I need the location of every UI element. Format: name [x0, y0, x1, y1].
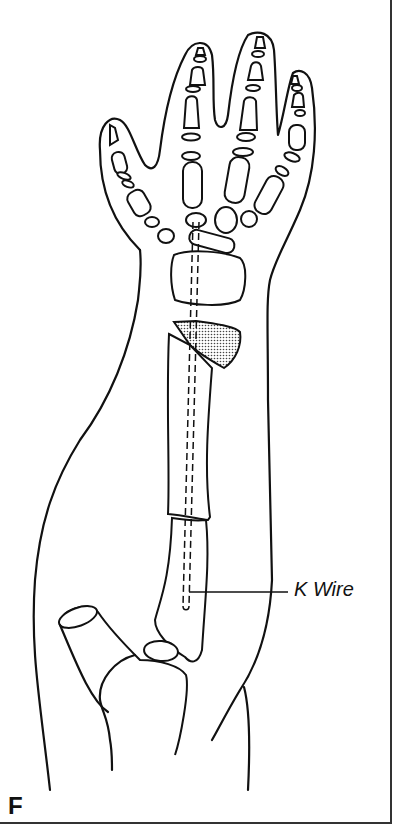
arm-hand-drawing	[0, 0, 395, 830]
panel-letter: F	[8, 792, 23, 820]
forearm-left-outline	[34, 250, 141, 790]
forearm-bone-shaft	[168, 334, 212, 520]
medical-illustration: K Wire F	[0, 0, 395, 830]
distal-bone	[155, 518, 207, 661]
kwire-label: K Wire	[294, 578, 354, 601]
carpal-bones	[171, 207, 257, 305]
elbow-right-contour	[244, 687, 249, 790]
